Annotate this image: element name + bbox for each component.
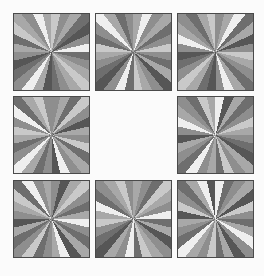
puzzle-tile-r1-c0 <box>13 96 90 174</box>
puzzle-tile-r2-c2 <box>177 180 254 258</box>
puzzle-tile-r2-c0 <box>13 180 90 258</box>
sunburst-pattern <box>14 181 89 257</box>
sunburst-pattern <box>178 97 253 173</box>
sunburst-pattern <box>14 97 89 173</box>
puzzle-tile-r0-c1 <box>95 13 172 91</box>
sunburst-pattern <box>96 181 171 257</box>
sunburst-pattern <box>178 14 253 90</box>
puzzle-tile-r1-c2 <box>177 96 254 174</box>
puzzle-tile-r0-c2 <box>177 13 254 91</box>
puzzle-tile-r2-c1 <box>95 180 172 258</box>
sunburst-pattern <box>14 14 89 90</box>
missing-tile-slot <box>95 96 172 174</box>
sunburst-pattern <box>178 181 253 257</box>
puzzle-tile-r0-c0 <box>13 13 90 91</box>
sunburst-pattern <box>96 14 171 90</box>
